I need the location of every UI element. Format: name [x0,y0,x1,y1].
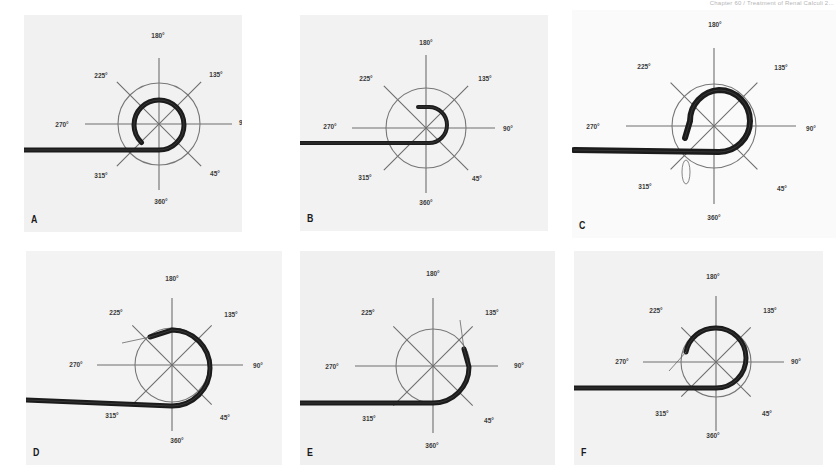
angle-target-diagram: 180°225°135°270°90°315°45°360° [300,251,555,465]
angle-label-315: 315° [358,174,372,181]
angle-label-360: 360° [706,432,720,439]
balloon-tip [682,160,690,184]
angle-label-180: 180° [706,273,720,280]
guidewire-catheter [574,90,750,152]
guidewire-tip [122,337,150,343]
figure-panel-e: 180°225°135°270°90°315°45°360°E [300,251,555,465]
angle-label-180: 180° [165,275,179,282]
angle-label-315: 315° [655,410,669,417]
angle-target-diagram: 180°225°135°270°90°315°45°360° [574,251,823,465]
protractor-grid [626,48,796,204]
protractor-grid [355,298,498,433]
panel-label-d: D [33,446,39,458]
angle-label-45: 45° [220,414,230,421]
angle-label-315: 315° [105,412,119,419]
angle-label-315: 315° [362,415,376,422]
angle-label-270: 270° [55,121,69,128]
angle-label-225: 225° [361,309,375,316]
angle-label-225: 225° [94,72,108,79]
angle-label-270: 270° [586,123,600,130]
angle-label-360: 360° [170,437,184,444]
panel-label-b: B [307,212,313,224]
angle-label-180: 180° [708,21,722,28]
angle-label-225: 225° [649,307,663,314]
angle-label-90: 90° [791,358,801,365]
angle-label-45: 45° [210,170,220,177]
angle-label-90: 90° [253,362,263,369]
angle-label-225: 225° [637,63,651,70]
angle-label-270: 270° [325,363,339,370]
figure-panel-f: 180°225°135°270°90°315°45°360°F [574,251,823,465]
angle-label-225: 225° [359,75,373,82]
angle-label-315: 315° [94,172,108,179]
angle-label-315: 315° [638,183,652,190]
running-head: Chapter 60 / Treatment of Renal Calculi … [710,0,834,8]
angle-label-90: 90° [514,362,524,369]
angle-target-diagram: 180°225°135°270°90°315°45°360° [24,15,242,232]
angle-label-45: 45° [762,410,772,417]
angle-label-270: 270° [615,358,629,365]
guidewire-catheter [26,330,210,406]
panel-label-a: A [31,213,37,225]
angle-label-135: 135° [774,64,788,71]
angle-label-180: 180° [151,32,165,39]
figure-panel-a: 180°225°135°270°90°315°45°360°A [24,15,242,232]
angle-label-135: 135° [209,71,223,78]
angle-label-135: 135° [478,75,492,82]
figure-panel-c: 180°225°135°270°90°315°45°360°C [572,10,836,238]
angle-label-90: 90° [239,119,242,126]
guidewire-catheter [300,107,447,143]
protractor-grid [97,298,243,431]
panel-label-e: E [307,446,313,458]
angle-label-225: 225° [109,309,123,316]
angle-target-diagram: 180°225°135°270°90°315°45°360° [300,15,548,231]
angle-label-135: 135° [763,307,777,314]
angle-label-180: 180° [419,39,433,46]
angle-label-45: 45° [484,417,494,424]
angle-label-90: 90° [503,125,513,132]
angle-label-360: 360° [154,198,168,205]
angle-label-135: 135° [224,311,238,318]
panel-label-f: F [581,446,586,458]
angle-label-270: 270° [323,123,337,130]
angle-label-360: 360° [425,442,439,449]
angle-target-diagram: 180°225°135°270°90°315°45°360° [572,10,836,238]
figure-panel-b: 180°225°135°270°90°315°45°360°B [300,15,548,231]
angle-label-45: 45° [472,175,482,182]
angle-label-180: 180° [426,270,440,277]
panel-label-c: C [579,219,585,231]
angle-label-135: 135° [485,309,499,316]
figure-panel-d: 180°225°135°270°90°315°45°360°D [26,251,282,465]
angle-label-45: 45° [777,185,787,192]
angle-label-360: 360° [707,214,721,221]
protractor-grid [352,55,495,193]
angle-label-360: 360° [419,199,433,206]
guidewire-tip [460,320,464,349]
angle-label-90: 90° [806,125,816,132]
angle-target-diagram: 180°225°135°270°90°315°45°360° [26,251,282,465]
angle-label-270: 270° [69,361,83,368]
